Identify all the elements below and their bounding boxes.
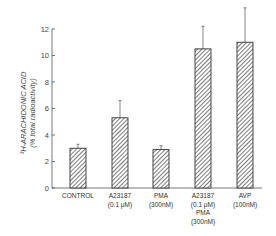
x-category-label: PMA (196, 209, 211, 216)
y-tick-label: 8 (45, 78, 49, 87)
x-category-label: A23187 (109, 192, 132, 199)
bar (237, 42, 253, 188)
x-axis-labels: CONTROLA23187(0.1 μM)PMA(300nM)A23187(0.… (62, 192, 257, 226)
y-tick-label: 10 (41, 51, 49, 60)
bars (70, 8, 253, 188)
y-tick-label: 6 (45, 104, 49, 113)
y-tick-label: 12 (41, 25, 49, 34)
bar (112, 118, 128, 188)
x-category-label: A23187 (192, 192, 215, 199)
y-axis-subtitle: (% total radioactivity) (28, 78, 37, 148)
x-category-label: (0.1 μM) (108, 201, 132, 209)
x-category-label: (300nM) (149, 201, 173, 209)
x-category-label: CONTROL (62, 192, 94, 199)
bar (70, 148, 86, 188)
bar (153, 150, 169, 188)
bar-chart: 024681012 ³H-ARACHIDONIC ACID(% total ra… (0, 0, 276, 236)
y-tick-label: 4 (45, 131, 49, 140)
x-category-label: PMA (154, 192, 169, 199)
bar (195, 49, 211, 188)
y-tick-label: 2 (45, 157, 49, 166)
x-category-label: (300nM) (191, 218, 215, 226)
y-axis-label: ³H-ARACHIDONIC ACID(% total radioactivit… (19, 71, 37, 154)
x-category-label: (0.1 μM) (191, 201, 215, 209)
y-axis-title: ³H-ARACHIDONIC ACID (19, 71, 28, 154)
x-category-label: AVP (239, 192, 252, 199)
x-category-label: (100nM) (233, 201, 257, 209)
y-tick-label: 0 (45, 184, 49, 193)
